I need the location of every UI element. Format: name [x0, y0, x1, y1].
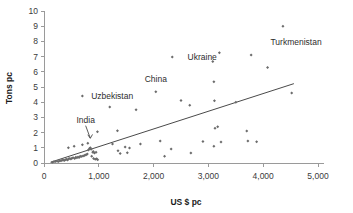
data-point — [86, 142, 89, 145]
data-point — [189, 152, 192, 155]
y-axis-ticks: 012345678910 — [29, 6, 44, 168]
y-tick-label: 2 — [33, 128, 38, 138]
data-point — [212, 145, 215, 148]
data-point — [266, 66, 269, 69]
x-tick-label: 3,000 — [198, 171, 220, 181]
data-point — [250, 54, 253, 57]
plot-area: 012345678910 01,0002,0003,0004,0005,000 … — [0, 0, 353, 213]
data-point — [290, 92, 293, 95]
data-point — [67, 146, 70, 149]
data-point — [213, 99, 216, 102]
data-point — [246, 139, 249, 142]
y-tick-label: 7 — [33, 52, 38, 62]
data-point — [90, 155, 93, 158]
data-points — [51, 25, 293, 164]
y-tick-label: 6 — [33, 67, 38, 77]
y-tick-label: 8 — [33, 36, 38, 46]
data-point — [170, 148, 173, 151]
data-point — [180, 99, 183, 102]
annotation-arrow-icon — [86, 126, 93, 139]
point-annotations: TurkmenistanUkraineChinaUzbekistanIndia — [76, 37, 322, 138]
data-point — [245, 130, 248, 133]
data-point — [124, 146, 127, 149]
data-point — [218, 51, 221, 54]
data-point — [216, 125, 219, 128]
data-point — [81, 143, 84, 146]
scatter-chart: 012345678910 01,0002,0003,0004,0005,000 … — [0, 0, 353, 213]
x-axis-ticks: 01,0002,0003,0004,0005,000 — [42, 163, 329, 181]
data-point — [220, 141, 223, 144]
data-point — [139, 143, 142, 146]
data-point — [281, 25, 284, 28]
x-tick-label: 4,000 — [253, 171, 275, 181]
x-tick-label: 5,000 — [307, 171, 329, 181]
y-tick-label: 4 — [33, 97, 38, 107]
y-axis-title: Tons pc — [4, 72, 14, 104]
data-point — [212, 80, 215, 83]
y-tick-label: 5 — [33, 82, 38, 92]
data-point — [108, 106, 111, 109]
annotation-label: Uzbekistan — [91, 91, 133, 101]
data-point — [135, 108, 138, 111]
data-point — [73, 145, 76, 148]
x-tick-label: 1,000 — [88, 171, 110, 181]
y-tick-label: 3 — [33, 112, 38, 122]
y-tick-label: 10 — [29, 6, 39, 16]
data-point — [116, 129, 119, 132]
x-tick-label: 0 — [42, 171, 47, 181]
y-tick-label: 0 — [33, 158, 38, 168]
data-point — [171, 55, 174, 58]
data-point — [213, 127, 216, 130]
data-point — [126, 151, 129, 154]
x-axis-title: US $ pc — [170, 197, 201, 207]
annotation-label: Ukraine — [188, 52, 218, 62]
data-point — [159, 139, 162, 142]
data-point — [188, 104, 191, 107]
data-point — [119, 152, 122, 155]
data-point — [201, 140, 204, 143]
data-point — [154, 90, 157, 93]
data-point — [255, 140, 258, 143]
data-point — [163, 155, 166, 158]
annotation-label: Turkmenistan — [270, 37, 321, 47]
annotation-label: China — [145, 74, 167, 84]
y-tick-label: 9 — [33, 21, 38, 31]
data-point — [128, 147, 131, 150]
data-point — [116, 149, 119, 152]
data-point — [81, 95, 84, 98]
y-tick-label: 1 — [33, 143, 38, 153]
annotation-label: India — [76, 115, 95, 125]
data-point — [96, 130, 99, 133]
x-tick-label: 2,000 — [143, 171, 165, 181]
